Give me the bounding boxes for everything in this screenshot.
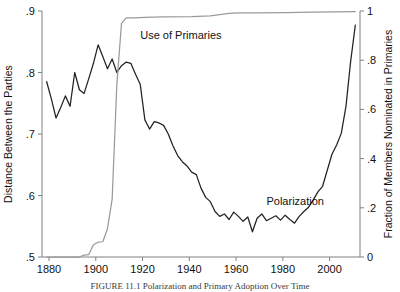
series-group [47,12,356,257]
x-tick-label: 1980 [271,263,295,275]
left-tick-label: .6 [26,190,35,202]
chart-canvas: .5.6.7.8.90.2.4.6.8118801900192019401960… [0,0,400,292]
x-tick-label: 1880 [37,263,61,275]
x-tick-label: 1900 [84,263,108,275]
series-annotation-polarization: Polarization [266,195,323,207]
right-axis-title: Fraction of Members Nominated in Primari… [382,30,394,238]
left-tick-label: .8 [26,67,35,79]
x-tick-label: 1940 [177,263,201,275]
series-annotation-use-of-primaries: Use of Primaries [140,29,222,41]
right-tick-label: .2 [367,202,376,214]
x-tick-label: 1960 [224,263,248,275]
axis-labels-group: Distance Between the PartiesFraction of … [2,30,394,238]
annotations-group: PolarizationUse of Primaries [140,29,324,206]
left-tick-label: .9 [26,5,35,17]
left-tick-label: .5 [26,251,35,263]
series-line-use-of-primaries [47,12,356,257]
right-tick-label: 0 [367,251,373,263]
right-tick-label: 1 [367,5,373,17]
axes-group: .5.6.7.8.90.2.4.6.8118801900192019401960… [26,5,376,275]
left-tick-label: .7 [26,128,35,140]
figure-caption: FIGURE 11.1 Polarization and Primary Ado… [90,281,309,291]
right-tick-label: .6 [367,103,376,115]
x-tick-label: 1920 [130,263,154,275]
left-axis-title: Distance Between the Parties [2,65,14,203]
x-tick-label: 2000 [317,263,341,275]
right-tick-label: .4 [367,153,376,165]
figure-container: .5.6.7.8.90.2.4.6.8118801900192019401960… [0,0,400,292]
right-tick-label: .8 [367,54,376,66]
